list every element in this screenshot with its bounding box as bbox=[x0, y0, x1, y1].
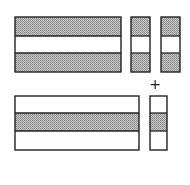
diagram-canvas: + bbox=[0, 0, 190, 185]
top-large-rect bbox=[15, 17, 121, 72]
top-small-1-band-2-white bbox=[131, 36, 150, 53]
top-small-2-band-2-white bbox=[161, 36, 180, 53]
top-small-2-band-1-shaded bbox=[161, 17, 180, 36]
plus-sign: + bbox=[149, 76, 161, 92]
top-large-band-2-white bbox=[15, 36, 121, 53]
top-small-1-rect bbox=[131, 17, 150, 72]
top-small-1-band-1-shaded bbox=[131, 17, 150, 36]
bottom-small-band-1-white bbox=[150, 96, 167, 113]
top-small-2-rect bbox=[161, 17, 180, 72]
bottom-large-band-2-shaded bbox=[15, 113, 139, 131]
bottom-small-band-3-white bbox=[150, 131, 167, 150]
top-small-1-band-3-shaded bbox=[131, 53, 150, 72]
bottom-large-rect bbox=[15, 96, 139, 150]
top-large-band-3-shaded bbox=[15, 53, 121, 72]
bottom-small-rect bbox=[150, 96, 167, 150]
bottom-large-band-1-white bbox=[15, 96, 139, 113]
top-large-band-1-shaded bbox=[15, 17, 121, 36]
top-small-2-band-3-shaded bbox=[161, 53, 180, 72]
bottom-large-band-3-white bbox=[15, 131, 139, 150]
bottom-small-band-2-shaded bbox=[150, 113, 167, 131]
